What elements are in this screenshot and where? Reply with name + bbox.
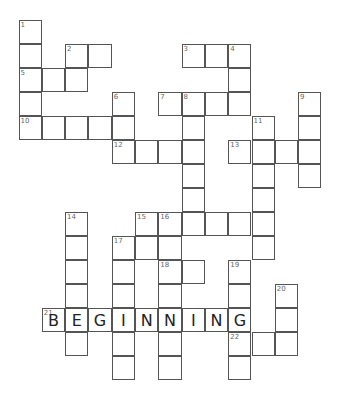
crossword-cell[interactable]: N [205,308,228,332]
crossword-cell[interactable] [298,140,321,164]
crossword-cell[interactable]: 4 [228,44,251,68]
crossword-cell[interactable] [88,44,111,68]
crossword-cell[interactable] [252,188,275,212]
crossword-cell[interactable]: 7 [158,92,181,116]
crossword-cell[interactable] [275,308,298,332]
crossword-cell[interactable] [228,92,251,116]
clue-number: 16 [160,213,169,222]
crossword-cell[interactable] [275,332,298,356]
crossword-cell[interactable]: E [65,308,88,332]
crossword-cell[interactable] [228,212,251,236]
crossword-cell[interactable]: 21B [42,308,65,332]
crossword-cell[interactable] [112,260,135,284]
crossword-cell[interactable] [252,212,275,236]
crossword-cell[interactable] [228,68,251,92]
crossword-cell[interactable] [42,116,65,140]
crossword-cell[interactable] [42,68,65,92]
crossword-cell[interactable] [158,332,181,356]
crossword-cell[interactable] [252,236,275,260]
crossword-cell[interactable]: 13 [228,140,251,164]
crossword-cell[interactable] [205,212,228,236]
crossword-cell[interactable] [65,236,88,260]
crossword-cell[interactable] [65,116,88,140]
crossword-cell[interactable]: 3 [182,44,205,68]
crossword-cell[interactable] [65,260,88,284]
crossword-cell[interactable] [158,284,181,308]
crossword-cell[interactable] [205,44,228,68]
clue-number: 18 [160,261,169,270]
crossword-cell[interactable]: 1 [19,20,42,44]
clue-number: 10 [21,117,30,126]
clue-number: 14 [67,213,76,222]
crossword-cell[interactable]: 19 [228,260,251,284]
crossword-cell[interactable]: I [112,308,135,332]
crossword-cell[interactable]: 20 [275,284,298,308]
crossword-cell[interactable]: 12 [112,140,135,164]
crossword-cell[interactable] [182,116,205,140]
crossword-cell[interactable]: 17 [112,236,135,260]
crossword-cell[interactable] [275,140,298,164]
clue-number: 12 [114,141,123,150]
clue-number: 22 [230,333,239,342]
clue-number: 19 [230,261,239,270]
crossword-cell[interactable] [182,260,205,284]
crossword-cell[interactable] [158,236,181,260]
crossword-cell[interactable]: 10 [19,116,42,140]
clue-number: 4 [230,45,234,54]
crossword-cell[interactable] [182,164,205,188]
crossword-cell[interactable]: G [88,308,111,332]
crossword-cell[interactable] [228,356,251,380]
crossword-cell[interactable]: 9 [298,92,321,116]
crossword-cell[interactable]: 18 [158,260,181,284]
clue-number: 3 [184,45,188,54]
crossword-cell[interactable]: I [182,308,205,332]
crossword-cell[interactable] [205,92,228,116]
crossword-cell[interactable] [65,332,88,356]
crossword-cell[interactable]: N [135,308,158,332]
crossword-cell[interactable] [182,140,205,164]
crossword-cell[interactable] [182,188,205,212]
crossword-cell[interactable] [19,92,42,116]
crossword-cell[interactable]: 5 [19,68,42,92]
cell-letter: B [43,311,64,331]
crossword-cell[interactable] [298,164,321,188]
crossword-cell[interactable] [252,140,275,164]
cell-letter: N [159,311,180,331]
crossword-cell[interactable] [112,332,135,356]
cell-letter: N [136,311,157,331]
crossword-cell[interactable] [112,284,135,308]
crossword-cell[interactable] [135,236,158,260]
crossword-cell[interactable]: 8 [182,92,205,116]
crossword-cell[interactable] [298,116,321,140]
crossword-cell[interactable]: 2 [65,44,88,68]
cell-letter: N [206,311,227,331]
crossword-cell[interactable] [65,68,88,92]
crossword-cell[interactable]: 6 [112,92,135,116]
crossword-cell[interactable] [158,356,181,380]
crossword-cell[interactable] [182,212,205,236]
crossword-cell[interactable] [252,332,275,356]
clue-number: 8 [184,93,188,102]
cell-letter: I [183,311,204,331]
crossword-cell[interactable] [112,116,135,140]
crossword-cell[interactable] [112,356,135,380]
crossword-cell[interactable] [228,284,251,308]
crossword-cell[interactable] [65,284,88,308]
crossword-cell[interactable]: 22 [228,332,251,356]
crossword-cell[interactable] [158,140,181,164]
clue-number: 7 [160,93,164,102]
crossword-cell[interactable] [88,116,111,140]
clue-number: 9 [300,93,304,102]
crossword-cell[interactable]: 14 [65,212,88,236]
crossword-cell[interactable] [19,44,42,68]
crossword-cell[interactable] [135,140,158,164]
clue-number: 11 [254,117,263,126]
crossword-cell[interactable]: 16 [158,212,181,236]
crossword-cell[interactable]: N [158,308,181,332]
clue-number: 2 [67,45,71,54]
crossword-cell[interactable] [252,164,275,188]
crossword-cell[interactable]: 11 [252,116,275,140]
crossword-cell[interactable]: G [228,308,251,332]
crossword-cell[interactable]: 15 [135,212,158,236]
cell-letter: G [89,311,110,331]
